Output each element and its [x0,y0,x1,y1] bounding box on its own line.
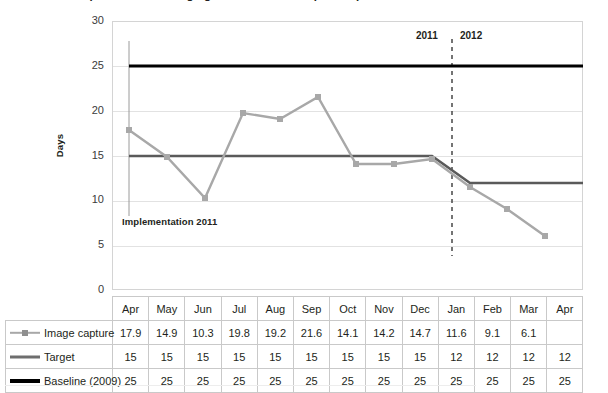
implementation-annotation: Implementation 2011 [122,216,217,227]
y-tick-20: 20 [76,105,104,116]
y-tick-15: 15 [76,150,104,161]
legend-cell-baseline-2009: Baseline (2009) [6,369,113,393]
cell-image-capture-aug: 19.2 [257,321,293,345]
table-row: Target 15 15 15 15 15 15 15 15 15 12 12 … [6,345,583,369]
cell-baseline-apr-2: 25 [547,369,583,393]
cell-target-apr-2: 12 [547,345,583,369]
plot-area: Implementation 2011 2011 2012 [112,21,583,290]
month-header-sep: Sep [293,297,329,321]
cell-image-capture-jan: 11.6 [438,321,474,345]
y-tick-30: 30 [76,15,104,26]
cell-baseline-oct: 25 [330,369,366,393]
cell-target-jul: 15 [221,345,257,369]
month-header-jul: Jul [221,297,257,321]
cell-image-capture-apr-2 [547,321,583,345]
cell-target-sep: 15 [293,345,329,369]
month-header-nov: Nov [366,297,402,321]
y-axis-label: Days [54,86,65,206]
y-tick-25: 25 [76,60,104,71]
legend-cell-image-capture: Image capture [6,321,113,345]
cell-target-feb: 12 [474,345,510,369]
y-tick-0: 0 [76,284,104,295]
data-table: Apr May Jun Jul Aug Sep Oct Nov Dec Jan … [5,296,583,393]
y-tick-5: 5 [76,239,104,250]
year-label-2011: 2011 [416,30,438,41]
cell-image-capture-nov: 14.2 [366,321,402,345]
table-row: Baseline (2009) 25 25 25 25 25 25 25 25 … [6,369,583,393]
cell-target-jun: 15 [185,345,221,369]
cell-baseline-dec: 25 [402,369,438,393]
legend-cell-target: Target [6,345,113,369]
y-tick-10: 10 [76,194,104,205]
cell-image-capture-feb: 9.1 [474,321,510,345]
solid-line-icon [10,351,40,363]
month-header-dec: Dec [402,297,438,321]
cell-image-capture-jun: 10.3 [185,321,221,345]
cell-baseline-nov: 25 [366,369,402,393]
cell-image-capture-may: 14.9 [149,321,185,345]
month-header-jan: Jan [438,297,474,321]
cell-target-mar: 12 [511,345,547,369]
chart-series-canvas [113,22,584,291]
cell-target-may: 15 [149,345,185,369]
line-with-square-marker-icon [10,327,40,339]
month-header-may: May [149,297,185,321]
bottom-divider [5,385,476,386]
cell-target-apr-1: 15 [113,345,149,369]
chart-title-text: Improvement in imaging turnaround times … [76,0,536,1]
cell-target-dec: 15 [402,345,438,369]
cell-target-nov: 15 [366,345,402,369]
cell-target-oct: 15 [330,345,366,369]
table-corner-cell [6,297,113,321]
cell-baseline-jan: 25 [438,369,474,393]
month-header-aug: Aug [257,297,293,321]
month-header-mar: Mar [511,297,547,321]
cell-baseline-jul: 25 [221,369,257,393]
cell-baseline-aug: 25 [257,369,293,393]
cell-baseline-mar: 25 [511,369,547,393]
month-header-apr-2: Apr [547,297,583,321]
month-header-jun: Jun [185,297,221,321]
cell-baseline-feb: 25 [474,369,510,393]
table-row: Image capture 17.9 14.9 10.3 19.8 19.2 2… [6,321,583,345]
cell-baseline-may: 25 [149,369,185,393]
series-target [129,156,583,183]
chart-title-clipped: Improvement in imaging turnaround times … [0,0,608,9]
cell-image-capture-apr-1: 17.9 [113,321,149,345]
month-header-feb: Feb [474,297,510,321]
table-header-row: Apr May Jun Jul Aug Sep Oct Nov Dec Jan … [6,297,583,321]
legend-label-target: Target [44,351,75,363]
cell-image-capture-mar: 6.1 [511,321,547,345]
cell-baseline-sep: 25 [293,369,329,393]
year-label-2012: 2012 [460,30,482,41]
cell-image-capture-oct: 14.1 [330,321,366,345]
cell-target-aug: 15 [257,345,293,369]
month-header-oct: Oct [330,297,366,321]
legend-label-image-capture: Image capture [44,327,114,339]
cell-baseline-jun: 25 [185,369,221,393]
cell-target-jan: 12 [438,345,474,369]
cell-image-capture-sep: 21.6 [293,321,329,345]
cell-image-capture-dec: 14.7 [402,321,438,345]
cell-image-capture-jul: 19.8 [221,321,257,345]
month-header-apr-1: Apr [113,297,149,321]
